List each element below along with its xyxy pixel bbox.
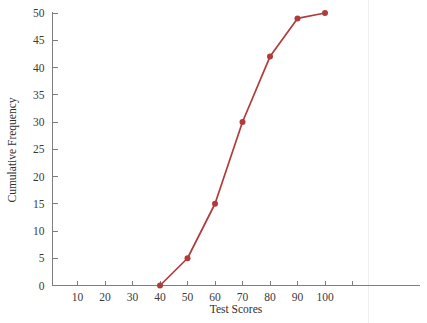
ogive-chart: 05101520253035404550 1020304050607080901…	[0, 0, 427, 323]
y-tick-label: 35	[33, 89, 45, 101]
x-tick-label: 50	[182, 291, 194, 303]
x-tick-label: 30	[127, 291, 139, 303]
y-tick-label: 10	[33, 225, 45, 237]
x-tick-label: 90	[292, 291, 304, 303]
y-tick-label: 15	[33, 198, 45, 210]
data-point-markers	[157, 10, 328, 289]
x-tick-label: 20	[99, 291, 111, 303]
y-axis-title: Cumulative Frequency	[6, 97, 19, 202]
data-point	[322, 10, 328, 16]
data-point	[157, 283, 163, 289]
x-axis-ticks: 102030405060708090100	[72, 281, 353, 303]
x-tick-label: 80	[264, 291, 276, 303]
x-tick-label: 40	[154, 291, 166, 303]
y-tick-label: 40	[33, 62, 45, 74]
y-tick-label: 25	[33, 143, 45, 155]
x-tick-label: 60	[209, 291, 221, 303]
x-tick-label: 10	[72, 291, 84, 303]
data-point	[212, 201, 218, 207]
data-series-group	[157, 10, 328, 289]
y-axis-ticks: 05101520253035404550	[33, 7, 58, 292]
cumulative-frequency-line	[160, 13, 325, 286]
data-point	[240, 119, 246, 125]
y-tick-label: 45	[33, 34, 45, 46]
data-point	[295, 15, 301, 21]
y-tick-label: 0	[39, 280, 45, 292]
x-tick-label: 70	[237, 291, 249, 303]
data-point	[185, 255, 191, 261]
y-tick-label: 20	[33, 171, 45, 183]
chart-figure: 05101520253035404550 1020304050607080901…	[0, 0, 427, 323]
data-point	[267, 54, 273, 60]
x-axis-title: Test Scores	[210, 303, 263, 315]
y-tick-label: 30	[33, 116, 45, 128]
y-tick-label: 5	[39, 252, 45, 264]
axes-group	[53, 12, 421, 286]
x-tick-label: 100	[316, 291, 334, 303]
y-tick-label: 50	[33, 7, 45, 19]
